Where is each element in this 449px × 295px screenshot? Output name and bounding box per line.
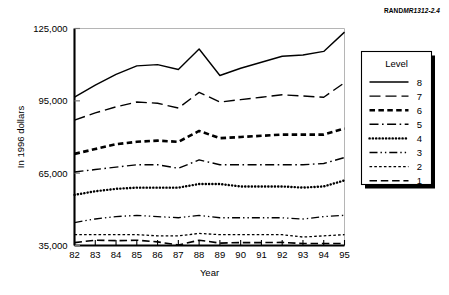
x-axis-tick-label: 88 xyxy=(194,249,205,260)
legend-label-6: 6 xyxy=(417,105,422,116)
legend-label-2: 2 xyxy=(417,161,422,172)
figure-container: RANDMR1312-2.4 35,00065,00095,000125,000… xyxy=(0,0,449,295)
x-axis-tick-label: 92 xyxy=(277,249,288,260)
y-axis-tick-label: 95,000 xyxy=(38,95,67,106)
series-line-2 xyxy=(75,233,345,237)
y-axis-tick-label: 125,000 xyxy=(33,23,67,34)
legend-label-5: 5 xyxy=(417,119,422,130)
x-axis-tick-label: 87 xyxy=(173,249,184,260)
series-line-5 xyxy=(75,157,345,171)
legend-label-8: 8 xyxy=(417,77,422,88)
x-axis-tick-label: 86 xyxy=(152,249,163,260)
x-axis-tick-label: 90 xyxy=(235,249,246,260)
legend-label-3: 3 xyxy=(417,147,422,158)
legend-label-4: 4 xyxy=(417,133,422,144)
x-axis-tick-label: 84 xyxy=(111,249,122,260)
legend: Level87654321 xyxy=(362,52,436,189)
line-chart: 35,00065,00095,000125,000828384858687888… xyxy=(0,0,449,295)
x-axis-tick-label: 94 xyxy=(318,249,329,260)
x-axis-title: Year xyxy=(200,267,219,278)
series-line-1 xyxy=(75,240,345,245)
x-axis-tick-label: 83 xyxy=(90,249,101,260)
x-axis-tick-label: 85 xyxy=(132,249,143,260)
legend-label-1: 1 xyxy=(417,175,422,186)
series-line-6 xyxy=(75,129,345,154)
x-axis-tick-label: 95 xyxy=(339,249,350,260)
x-axis-tick-label: 89 xyxy=(215,249,226,260)
series-line-8 xyxy=(75,32,345,97)
x-axis-tick-label: 82 xyxy=(69,249,80,260)
series-line-3 xyxy=(75,215,345,222)
x-axis-tick-label: 93 xyxy=(298,249,309,260)
x-axis-tick-label: 91 xyxy=(256,249,267,260)
series-line-7 xyxy=(75,83,345,120)
y-axis-tick-label: 65,000 xyxy=(38,168,67,179)
series-group xyxy=(75,32,345,245)
y-axis-tick-label: 35,000 xyxy=(38,240,67,251)
legend-label-7: 7 xyxy=(417,91,422,102)
y-axis-title: In 1996 dollars xyxy=(15,106,26,169)
series-line-4 xyxy=(75,180,345,194)
legend-title: Level xyxy=(385,58,408,69)
